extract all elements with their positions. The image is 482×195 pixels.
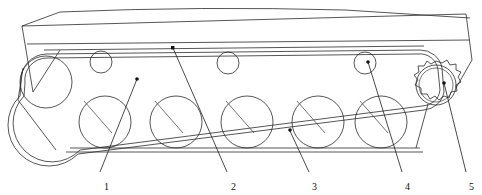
callout-3-label: 3 — [312, 181, 317, 192]
callout-5-label: 5 — [469, 181, 474, 192]
idler-wheel — [20, 56, 72, 108]
road-wheel-group — [79, 96, 407, 148]
running-gear-diagram: 1 2 3 4 — [0, 0, 482, 195]
callout-1-dot — [135, 77, 139, 81]
callout-5-dot — [442, 81, 446, 85]
road-wheel-spoke — [360, 101, 388, 133]
return-roller — [90, 51, 112, 73]
return-roller — [217, 52, 239, 74]
return-roller-group — [90, 51, 376, 74]
callout-1-label: 1 — [104, 181, 109, 192]
callout-3[interactable]: 3 — [288, 128, 317, 192]
return-roller — [354, 52, 376, 74]
idler-wheel-rim — [20, 56, 72, 108]
road-wheel — [221, 96, 273, 148]
callout-4[interactable]: 4 — [366, 60, 410, 192]
road-wheel — [150, 96, 202, 148]
track-upper-run-inner — [44, 46, 424, 50]
callout-2-dot — [171, 46, 174, 49]
callout-4-label: 4 — [405, 181, 410, 192]
hull-upper-band-top — [22, 14, 466, 26]
road-wheel-spoke — [226, 101, 254, 133]
figure-root: 1 2 3 4 — [0, 0, 482, 195]
road-wheel-spoke — [155, 101, 183, 133]
track-outer-loop — [8, 50, 444, 166]
track-inner-loop — [13, 54, 440, 162]
callout-group: 1 2 3 4 — [100, 46, 474, 192]
hull-belt-line — [27, 40, 470, 44]
callout-1[interactable]: 1 — [100, 77, 139, 192]
callout-3-leader — [290, 131, 309, 172]
road-wheel-spoke — [84, 101, 112, 133]
callout-2[interactable]: 2 — [171, 46, 236, 192]
callout-2-leader — [173, 48, 227, 172]
callout-5-leader — [444, 83, 466, 172]
callout-3-dot — [288, 128, 292, 132]
track-front-slope — [18, 68, 56, 150]
road-wheel — [79, 96, 131, 148]
hull-roof-line — [22, 8, 470, 26]
road-wheel-spoke — [297, 101, 325, 133]
callout-2-label: 2 — [231, 181, 236, 192]
callout-4-dot — [366, 60, 370, 64]
callout-4-leader — [368, 62, 402, 172]
